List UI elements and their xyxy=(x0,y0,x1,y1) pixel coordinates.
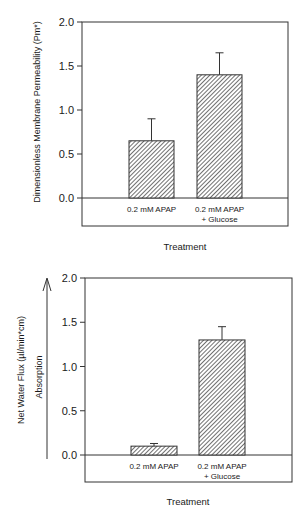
plot-frame xyxy=(82,22,288,226)
bars xyxy=(129,53,242,198)
category-label: 0.2 mM APAP xyxy=(197,462,246,471)
y-tick-label: 1.0 xyxy=(59,104,74,116)
y-tick-label: 1.5 xyxy=(59,60,74,72)
category-labels: 0.2 mM APAP0.2 mM APAP+ Glucose xyxy=(129,462,246,481)
bar xyxy=(131,446,177,455)
y-axis-ticks: 0.00.51.01.52.0 xyxy=(62,272,85,461)
figure: 0.00.51.01.52.0 0.2 mM APAP0.2 mM APAP+ … xyxy=(0,0,308,516)
y-tick-label: 1.5 xyxy=(62,316,77,328)
category-label: 0.2 mM APAP xyxy=(127,205,176,214)
bars xyxy=(131,327,245,455)
category-label: + Glucose xyxy=(201,215,238,224)
x-axis-label: Treatment xyxy=(164,241,207,252)
x-axis-label: Treatment xyxy=(167,496,210,507)
bar xyxy=(129,141,174,198)
category-label: 0.2 mM APAP xyxy=(129,462,178,471)
y-axis-label: Net Water Flux (µl/min*cm) xyxy=(16,316,26,424)
water-flux-chart: 0.00.51.01.52.0 0.2 mM APAP0.2 mM APAP+ … xyxy=(16,272,292,507)
y-tick-label: 1.0 xyxy=(62,361,77,373)
y-tick-label: 0.0 xyxy=(62,449,77,461)
y-axis-label: Dimensionless Membrane Permeability (Pm*… xyxy=(32,21,42,203)
bar xyxy=(197,75,242,198)
category-labels: 0.2 mM APAP0.2 mM APAP+ Glucose xyxy=(127,205,244,224)
absorption-annotation: Absorption xyxy=(34,355,44,398)
category-label: + Glucose xyxy=(204,472,241,481)
plot-frame xyxy=(85,278,292,482)
y-tick-label: 2.0 xyxy=(62,272,77,284)
y-tick-label: 2.0 xyxy=(59,16,74,28)
y-tick-label: 0.0 xyxy=(59,192,74,204)
permeability-chart: 0.00.51.01.52.0 0.2 mM APAP0.2 mM APAP+ … xyxy=(32,16,288,252)
y-axis-ticks: 0.00.51.01.52.0 xyxy=(59,16,82,204)
category-label: 0.2 mM APAP xyxy=(195,205,244,214)
y-tick-label: 0.5 xyxy=(62,405,77,417)
y-tick-label: 0.5 xyxy=(59,148,74,160)
bar xyxy=(199,340,245,455)
